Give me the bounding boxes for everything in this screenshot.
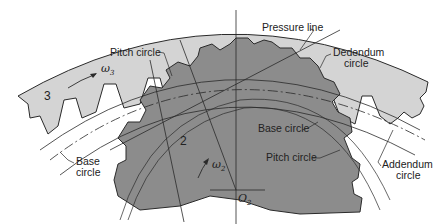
gear-3-number: 3 — [44, 89, 51, 103]
base-circle-left-label-2: circle — [76, 166, 101, 178]
base-circle-left-leader — [60, 152, 74, 163]
dedendum-label-2: circle — [344, 57, 369, 69]
base-circle-right-label: Base circle — [258, 122, 310, 134]
gear-2-number: 2 — [180, 134, 187, 148]
pressure-line-label: Pressure line — [262, 21, 323, 33]
pitch-circle-right-label: Pitch circle — [266, 151, 317, 163]
pitch-circle-top-label: Pitch circle — [110, 46, 161, 58]
addendum-label-2: circle — [396, 169, 421, 181]
gear-mesh-diagram: Pressure line Pitch circle Dedendum circ… — [0, 0, 446, 224]
